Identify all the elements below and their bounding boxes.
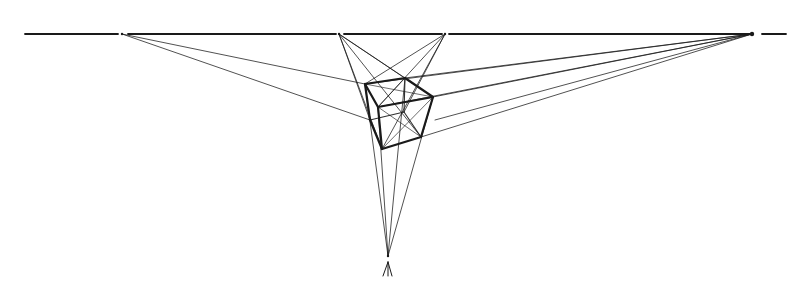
vanishing-point-center-left: [338, 33, 340, 35]
bottom-vanishing-marker: [383, 252, 392, 276]
construction-line-right-vp: [435, 34, 752, 120]
construction-line-right-vp: [405, 34, 752, 78]
three-point-perspective-drawing: [0, 0, 806, 299]
construction-line-right-vp: [421, 34, 752, 137]
construction-line-center-left: [339, 34, 370, 120]
marker-stroke: [383, 262, 388, 276]
vanishing-point-center-right: [444, 33, 446, 35]
vanishing-point-left: [121, 33, 123, 35]
perspective-diagram: [0, 0, 806, 299]
marker-stroke: [388, 262, 392, 276]
cube-edge: [365, 78, 405, 84]
construction-lines: [122, 34, 752, 256]
construction-line-right-vp: [378, 34, 752, 107]
vanishing-points: [121, 32, 754, 257]
vanishing-point-right: [750, 32, 754, 36]
